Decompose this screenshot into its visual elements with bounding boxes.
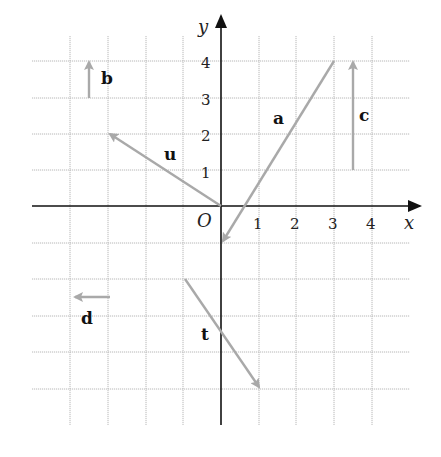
y-tick-3: 3 — [201, 91, 211, 109]
vector-label-t: t — [201, 324, 209, 344]
x-tick-1: 1 — [253, 215, 263, 233]
vector-a — [223, 61, 334, 241]
x-tick-2: 2 — [290, 215, 300, 233]
x-axis-label: x — [404, 212, 414, 233]
vector-label-b: b — [101, 68, 113, 88]
x-tick-4: 4 — [366, 215, 376, 233]
vector-t — [185, 279, 259, 387]
vector-label-u: u — [164, 144, 176, 164]
vector-label-c: c — [359, 105, 369, 125]
y-tick-1: 1 — [201, 164, 211, 182]
vector-diagram: 1 2 3 4 1 2 3 4 O x y a b c u d t — [0, 0, 441, 457]
y-tick-2: 2 — [201, 127, 211, 145]
y-axis-label: y — [197, 16, 209, 37]
origin-label: O — [197, 210, 212, 231]
x-tick-3: 3 — [328, 215, 338, 233]
vectors — [75, 61, 353, 387]
y-tick-4: 4 — [201, 54, 211, 72]
vector-label-a: a — [273, 108, 284, 128]
vector-label-d: d — [81, 308, 93, 328]
tick-labels: 1 2 3 4 1 2 3 4 O x y — [197, 16, 414, 233]
